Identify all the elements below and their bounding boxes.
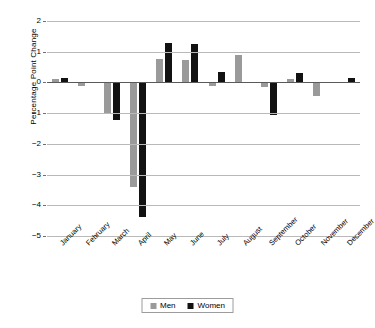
y-axis-tick-label: −2 <box>15 139 41 148</box>
bar-june-women <box>191 44 198 82</box>
gridline <box>47 52 360 53</box>
bar-march-women <box>113 82 120 119</box>
y-axis-tick-label: −3 <box>15 170 41 179</box>
y-axis-tick-mark <box>43 175 46 176</box>
bar-chart: Percentage Point Change 210−1−2−3−4−5 Ja… <box>0 0 375 328</box>
bar-group <box>47 21 360 236</box>
y-axis-tick-label: 2 <box>15 16 41 25</box>
bar-april-women <box>139 82 146 216</box>
bar-march-men <box>104 82 111 113</box>
gridline <box>47 175 360 176</box>
bar-may-women <box>165 43 172 82</box>
legend-label-women: Women <box>198 301 225 310</box>
bar-june-men <box>182 60 189 83</box>
y-axis-tick-label: 0 <box>15 77 41 86</box>
bar-august-men <box>235 55 242 82</box>
gridline <box>47 21 360 22</box>
legend-label-men: Men <box>160 301 176 310</box>
legend-item-men: Men <box>150 301 176 310</box>
plot-area <box>47 21 360 236</box>
gridline <box>47 113 360 114</box>
men-swatch-icon <box>150 303 156 309</box>
y-axis-tick-mark <box>43 21 46 22</box>
y-axis-tick-mark <box>43 82 46 83</box>
y-axis-tick-mark <box>43 52 46 53</box>
y-axis-tick-label: 1 <box>15 47 41 56</box>
zero-axis-line <box>47 82 360 83</box>
chart-legend: Men Women <box>141 298 234 313</box>
y-axis-tick-mark <box>43 144 46 145</box>
gridline <box>47 144 360 145</box>
bar-october-women <box>296 73 303 83</box>
women-swatch-icon <box>188 303 194 309</box>
y-axis-tick-mark <box>43 113 46 114</box>
legend-item-women: Women <box>188 301 225 310</box>
y-axis-tick-mark <box>43 236 46 237</box>
gridline <box>47 205 360 206</box>
y-axis-tick-label: −1 <box>15 108 41 117</box>
x-axis-labels: JanuaryFebruaryMarchAprilMayJuneJulyAugu… <box>47 239 360 299</box>
y-axis-tick-mark <box>43 205 46 206</box>
y-axis-tick-label: −4 <box>15 200 41 209</box>
bar-july-women <box>218 72 225 82</box>
bar-september-women <box>270 82 277 114</box>
bar-april-men <box>130 82 137 186</box>
bar-november-men <box>313 82 320 96</box>
y-axis-tick-label: −5 <box>15 231 41 240</box>
bar-may-men <box>156 59 163 82</box>
